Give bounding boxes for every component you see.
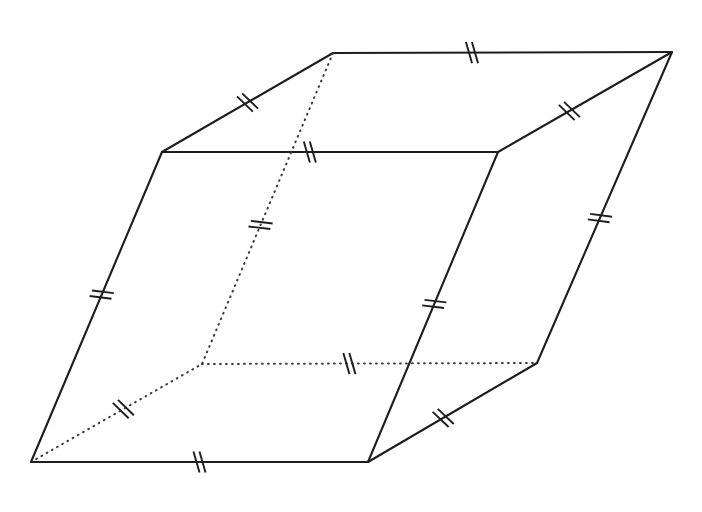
tick-mark-1 — [113, 403, 129, 418]
tick-mark-2 — [242, 93, 258, 108]
tick-mark-1 — [433, 412, 449, 427]
rhombohedron-svg-canvas — [0, 0, 702, 512]
tick-mark-2 — [349, 353, 355, 374]
tick-marks-layer — [90, 42, 612, 473]
tick-mark-2 — [438, 409, 454, 424]
tick-mark-2 — [564, 102, 580, 117]
tick-mark-2 — [422, 305, 444, 308]
edge-bottom-right — [368, 363, 537, 462]
tick-mark-1 — [425, 300, 447, 303]
tick-mark-1 — [237, 96, 253, 111]
tick-mark-1 — [251, 221, 273, 224]
edge-top-back — [333, 52, 672, 53]
rhombohedron-figure — [0, 0, 702, 512]
edge-bottom-left-double-tick — [113, 400, 134, 418]
edge-top-left — [162, 53, 333, 152]
edge-bottom-left — [31, 364, 202, 462]
tick-mark-1 — [559, 105, 575, 120]
edge-vert-back-left — [202, 53, 333, 364]
tick-mark-2 — [90, 296, 112, 299]
edge-bottom-back — [202, 363, 537, 364]
tick-mark-1 — [343, 353, 349, 374]
edge-top-right — [498, 52, 672, 152]
edge-vert-front-left — [31, 152, 162, 462]
edge-vert-back-right — [537, 52, 672, 363]
tick-mark-2 — [248, 226, 270, 229]
tick-mark-2 — [118, 400, 134, 415]
tick-mark-1 — [92, 291, 114, 294]
